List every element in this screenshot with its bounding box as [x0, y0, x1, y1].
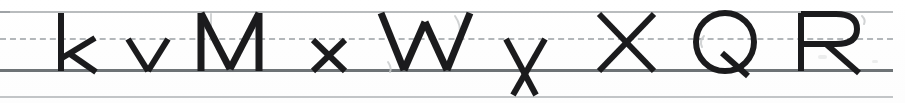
letter-v [128, 39, 168, 71]
letter-X [599, 14, 654, 71]
letter-Q [696, 13, 754, 76]
letter-R [801, 13, 859, 73]
handwritten-text [0, 0, 905, 103]
handwriting-worksheet: k v M x W y X Q R [0, 0, 905, 103]
letter-M [201, 13, 259, 71]
letter-k [61, 13, 96, 72]
letter-x [313, 40, 345, 71]
letter-y [506, 39, 545, 95]
letter-W [381, 13, 470, 70]
